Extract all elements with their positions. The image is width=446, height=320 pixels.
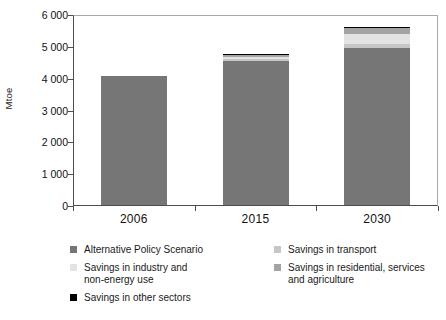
bar-segment xyxy=(223,61,289,205)
bar-segment xyxy=(101,76,167,205)
chart-figure: Mtoe 6 0005 0004 0003 0002 0001 0000 200… xyxy=(0,0,446,320)
legend-item-label: Alternative Policy Scenario xyxy=(84,244,270,257)
chart-legend: Alternative Policy ScenarioSavings in in… xyxy=(0,244,446,320)
bar-stack xyxy=(101,76,167,205)
x-axis-tick-label: 2006 xyxy=(89,212,179,226)
bar-stack xyxy=(223,54,289,205)
x-axis-tick-mark xyxy=(316,206,317,211)
y-axis-tick-label: 4 000 xyxy=(6,73,68,85)
y-axis-tick-label: 6 000 xyxy=(6,9,68,21)
x-axis-tick-label: 2030 xyxy=(332,212,422,226)
y-axis-tick-label: 3 000 xyxy=(6,105,68,117)
legend-item: Savings in residential, services and agr… xyxy=(274,262,446,287)
y-axis-tick-label: 1 000 xyxy=(6,168,68,180)
plot-area: Mtoe 6 0005 0004 0003 0002 0001 0000 200… xyxy=(0,0,446,240)
legend-swatch-icon xyxy=(70,264,77,271)
legend-swatch-icon xyxy=(274,264,281,271)
legend-item-label: Savings in industry and non-energy use xyxy=(84,262,270,287)
x-axis-tick-mark xyxy=(73,206,74,211)
legend-item: Savings in transport xyxy=(274,244,446,257)
legend-column-right: Savings in transportSavings in residenti… xyxy=(274,244,446,292)
bar-group xyxy=(101,14,167,205)
bar-group xyxy=(223,14,289,205)
bar-segment xyxy=(344,48,410,205)
bar-stack xyxy=(344,27,410,205)
x-axis-tick-label: 2015 xyxy=(211,212,301,226)
legend-item-label: Savings in other sectors xyxy=(84,292,270,305)
x-axis-tick-mark xyxy=(195,206,196,211)
bar-segment xyxy=(344,34,410,44)
legend-column-left: Alternative Policy ScenarioSavings in in… xyxy=(70,244,270,309)
legend-swatch-icon xyxy=(70,246,77,253)
legend-swatch-icon xyxy=(274,246,281,253)
y-axis-tick-label: 5 000 xyxy=(6,41,68,53)
plot-frame xyxy=(73,15,438,206)
legend-item: Alternative Policy Scenario xyxy=(70,244,270,257)
bar-group xyxy=(344,14,410,205)
legend-swatch-icon xyxy=(70,294,77,301)
legend-item-label: Savings in residential, services and agr… xyxy=(288,262,446,287)
legend-item: Savings in industry and non-energy use xyxy=(70,262,270,287)
legend-item-label: Savings in transport xyxy=(288,244,446,257)
y-axis-tick-label: 0 xyxy=(6,200,68,212)
y-axis-tick-label: 2 000 xyxy=(6,136,68,148)
x-axis-tick-mark xyxy=(438,206,439,211)
legend-item: Savings in other sectors xyxy=(70,292,270,305)
